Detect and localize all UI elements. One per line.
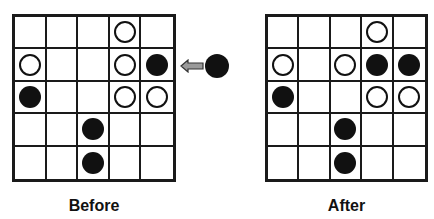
after-board [265, 14, 428, 182]
before-label: Before [12, 197, 176, 215]
board-cell [141, 147, 173, 179]
board-cell [362, 49, 393, 81]
board-cell [141, 17, 173, 49]
board-cell [78, 82, 110, 114]
board-cell [141, 114, 173, 146]
board-cell [268, 82, 299, 114]
board-cell [362, 82, 393, 114]
board-cell [47, 49, 79, 81]
board-cell [141, 49, 173, 81]
board-cell [110, 114, 142, 146]
board-cell [331, 17, 362, 49]
board-cell [394, 17, 425, 49]
black-disc [19, 86, 41, 108]
board-cell [15, 82, 47, 114]
board-cell [362, 147, 393, 179]
white-disc [114, 86, 136, 108]
white-disc [272, 54, 294, 76]
board-cell [362, 114, 393, 146]
white-disc [114, 21, 136, 43]
board-cell [141, 82, 173, 114]
black-disc [82, 152, 104, 174]
black-disc [334, 152, 356, 174]
board-cell [362, 17, 393, 49]
board-cell [78, 49, 110, 81]
board-cell [110, 82, 142, 114]
board-cell [78, 114, 110, 146]
push-arrow-icon [180, 59, 204, 73]
board-cell [78, 147, 110, 179]
white-disc [334, 54, 356, 76]
board-cell [299, 49, 330, 81]
board-cell [394, 49, 425, 81]
board-cell [268, 114, 299, 146]
board-cell [110, 49, 142, 81]
board-cell [268, 147, 299, 179]
black-disc [82, 118, 104, 140]
board-cell [15, 114, 47, 146]
board-cell [15, 147, 47, 179]
before-board [12, 14, 176, 182]
board-cell [78, 17, 110, 49]
after-label: After [265, 197, 428, 215]
black-disc [334, 118, 356, 140]
black-disc [146, 54, 168, 76]
white-disc [114, 54, 136, 76]
board-cell [110, 147, 142, 179]
white-disc [146, 86, 168, 108]
board-cell [394, 147, 425, 179]
board-cell [394, 82, 425, 114]
board-cell [331, 147, 362, 179]
board-cell [299, 147, 330, 179]
black-disc [398, 54, 420, 76]
board-cell [331, 49, 362, 81]
board-cell [331, 82, 362, 114]
board-cell [110, 17, 142, 49]
board-cell [299, 114, 330, 146]
board-cell [47, 82, 79, 114]
white-disc [19, 54, 41, 76]
board-cell [47, 114, 79, 146]
board-cell [299, 82, 330, 114]
white-disc [366, 86, 388, 108]
incoming-black-disc [205, 54, 229, 78]
board-cell [331, 114, 362, 146]
black-disc [272, 86, 294, 108]
board-cell [47, 17, 79, 49]
board-cell [47, 147, 79, 179]
white-disc [366, 21, 388, 43]
board-cell [268, 17, 299, 49]
black-disc [366, 54, 388, 76]
board-cell [15, 17, 47, 49]
board-cell [394, 114, 425, 146]
board-cell [299, 17, 330, 49]
white-disc [398, 86, 420, 108]
board-cell [268, 49, 299, 81]
board-cell [15, 49, 47, 81]
